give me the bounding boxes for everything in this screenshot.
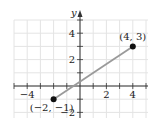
y-axis-arrow: [78, 10, 83, 17]
y-tick-label: 2: [69, 54, 75, 65]
data-point: [130, 43, 136, 49]
chart: y−42442−2(−2, −1)(4, 3): [0, 0, 148, 118]
point-annotation: (4, 3): [119, 31, 146, 42]
labels: y−42442−2(−2, −1)(4, 3): [20, 7, 147, 118]
point-annotation: (−2, −1): [30, 102, 74, 113]
x-tick-label: 4: [130, 89, 136, 100]
y-axis-label: y: [70, 7, 77, 18]
x-tick-label: −4: [20, 89, 35, 100]
x-tick-label: 2: [103, 89, 109, 100]
y-tick-label: 4: [69, 28, 75, 39]
